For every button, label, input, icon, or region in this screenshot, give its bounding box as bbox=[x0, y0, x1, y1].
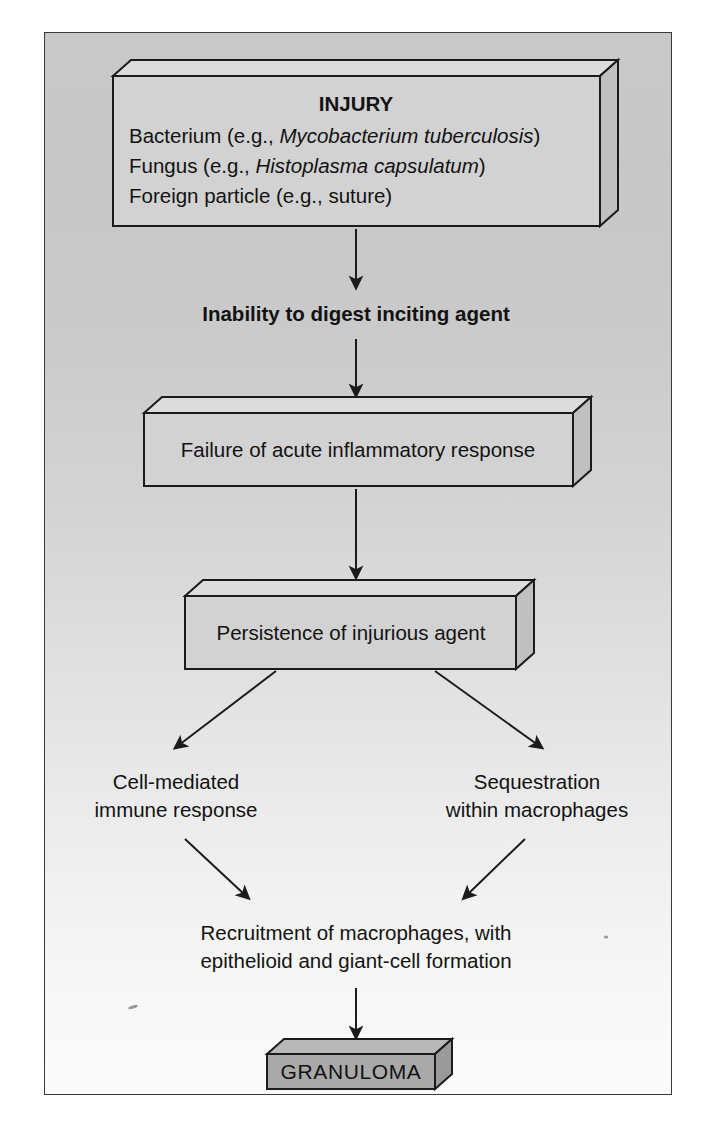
node-sequestration: Sequestration within macrophages bbox=[445, 770, 628, 821]
sequestration-line-1: Sequestration bbox=[474, 770, 601, 793]
injury-line2-pre: Fungus (e.g., bbox=[129, 154, 255, 177]
edge-sequestration-to-recruitment bbox=[467, 839, 525, 895]
edge-cell-mediated-to-recruitment bbox=[185, 839, 245, 895]
node-recruitment: Recruitment of macrophages, with epithel… bbox=[200, 921, 511, 972]
scan-speck-right bbox=[604, 935, 608, 938]
page-root: INJURY Bacterium (e.g., Mycobacterium tu… bbox=[0, 0, 712, 1129]
flowchart-svg: INJURY Bacterium (e.g., Mycobacterium tu… bbox=[45, 33, 673, 1096]
scan-speck-left bbox=[128, 1004, 139, 1010]
sequestration-line-2: within macrophages bbox=[445, 798, 628, 821]
node-cell-mediated: Cell-mediated immune response bbox=[95, 770, 258, 821]
cell-mediated-line-2: immune response bbox=[95, 798, 258, 821]
granuloma-box-top-face bbox=[267, 1039, 452, 1054]
recruitment-line-2: epithelioid and giant-cell formation bbox=[200, 949, 511, 972]
diagram-frame: INJURY Bacterium (e.g., Mycobacterium tu… bbox=[44, 32, 672, 1095]
node-injury: INJURY Bacterium (e.g., Mycobacterium tu… bbox=[113, 60, 618, 226]
node-granuloma: GRANULOMA bbox=[267, 1039, 452, 1089]
edge-persistence-to-sequestration bbox=[435, 671, 538, 745]
injury-line1-italic: Mycobacterium tuberculosis bbox=[279, 124, 533, 147]
injury-line-3: Foreign particle (e.g., suture) bbox=[129, 184, 392, 207]
failure-label: Failure of acute inflammatory response bbox=[181, 438, 535, 461]
cell-mediated-line-1: Cell-mediated bbox=[113, 770, 239, 793]
injury-line2-italic: Histoplasma capsulatum bbox=[255, 154, 478, 177]
injury-line1-post: ) bbox=[533, 124, 540, 147]
persistence-box-top-face bbox=[185, 580, 534, 596]
node-persistence: Persistence of injurious agent bbox=[185, 580, 534, 669]
node-failure: Failure of acute inflammatory response bbox=[144, 397, 591, 486]
injury-line-2: Fungus (e.g., Histoplasma capsulatum) bbox=[129, 154, 486, 177]
persistence-box-side-face bbox=[516, 580, 534, 669]
failure-box-top-face bbox=[144, 397, 591, 413]
failure-box-side-face bbox=[573, 397, 591, 486]
injury-box-top-face bbox=[113, 60, 618, 76]
injury-heading: INJURY bbox=[319, 92, 394, 115]
edge-persistence-to-cell-mediated bbox=[179, 671, 276, 745]
granuloma-label: GRANULOMA bbox=[281, 1060, 422, 1083]
recruitment-line-1: Recruitment of macrophages, with bbox=[200, 921, 511, 944]
persistence-label: Persistence of injurious agent bbox=[217, 621, 486, 644]
injury-line-1: Bacterium (e.g., Mycobacterium tuberculo… bbox=[129, 124, 540, 147]
node-inability-label: Inability to digest inciting agent bbox=[202, 302, 510, 325]
injury-line1-pre: Bacterium (e.g., bbox=[129, 124, 279, 147]
injury-box-side-face bbox=[600, 60, 618, 226]
injury-line2-post: ) bbox=[479, 154, 486, 177]
